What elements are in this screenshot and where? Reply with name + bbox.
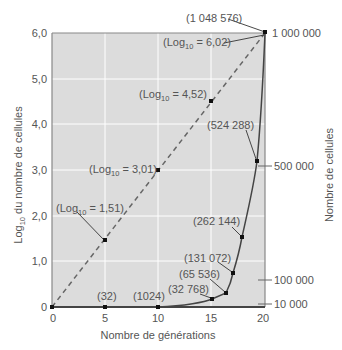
y-right-tick-10000: 10 000 xyxy=(274,298,308,310)
annotation-32768: (32 768) xyxy=(168,283,209,295)
annotation-65536: (65 536) xyxy=(179,268,220,280)
annotation-32: (32) xyxy=(97,290,117,302)
x-tick-15: 15 xyxy=(205,312,217,324)
y-tick-4: 4,0 xyxy=(32,118,47,130)
x-tick-0: 0 xyxy=(50,312,56,324)
x-axis-title: Nombre de générations xyxy=(101,329,216,341)
annotation-524288: (524 288) xyxy=(207,119,254,131)
y-left-tick-labels: 0 1,0 2,0 3,0 4,0 5,0 6,0 xyxy=(32,27,47,313)
y-tick-0: 0 xyxy=(41,301,47,313)
y-tick-1: 1,0 xyxy=(32,255,47,267)
x-tick-20: 20 xyxy=(257,312,269,324)
x-tick-10: 10 xyxy=(152,312,164,324)
x-tick-labels: 0 5 10 15 20 xyxy=(50,312,269,324)
x-tick-5: 5 xyxy=(102,312,108,324)
y-left-axis-title: Log10 du nombre de cellules xyxy=(12,106,27,244)
y-right-tick-500000: 500 000 xyxy=(274,160,314,172)
y-tick-3: 3,0 xyxy=(32,164,47,176)
annotation-1048576: (1 048 576) xyxy=(186,12,242,24)
y-right-axis-title: Nombre de cellules xyxy=(323,127,335,222)
annotation-262144: (262 144) xyxy=(193,215,240,227)
y-tick-6: 6,0 xyxy=(32,27,47,39)
y-right-tick-100000: 100 000 xyxy=(274,274,314,286)
y-right-tick-labels: 10 000 100 000 500 000 1 000 000 xyxy=(272,27,321,310)
annotation-1024: (1024) xyxy=(133,290,165,302)
y-right-tick-1000000: 1 000 000 xyxy=(272,27,321,39)
chart: 0 1,0 2,0 3,0 4,0 5,0 6,0 0 5 10 15 20 1… xyxy=(0,0,342,350)
y-tick-5: 5,0 xyxy=(32,73,47,85)
annotation-131072: (131 072) xyxy=(184,252,231,264)
y-tick-2: 2,0 xyxy=(32,210,47,222)
